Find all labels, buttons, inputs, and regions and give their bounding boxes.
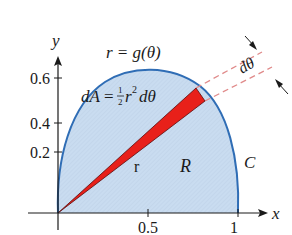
dtheta-dash-lower: [205, 67, 272, 101]
polar-area-diagram: 0.5 1 0.2 0.4 0.6 x y r = g(θ) dA = 1 2 …: [0, 0, 292, 235]
formula-equals: =: [104, 87, 114, 106]
x-tick-label-1: 1: [230, 219, 238, 235]
formula-frac-den: 2: [118, 97, 123, 107]
formula-r: r: [125, 87, 132, 106]
dtheta-arrow-top-icon: [245, 36, 257, 50]
dtheta-arrow-bottom-icon: [275, 79, 288, 94]
y-tick-label-0.6: 0.6: [30, 70, 50, 87]
formula-lhs: dA: [81, 87, 101, 106]
x-axis-label: x: [271, 204, 280, 223]
formula-dtheta: dθ: [139, 87, 156, 106]
x-tick-label-0.5: 0.5: [138, 219, 158, 235]
curve-label: C: [244, 153, 256, 172]
formula-frac-num: 1: [118, 85, 123, 95]
y-axis-label: y: [50, 31, 60, 50]
curve-equation: r = g(θ): [106, 43, 161, 62]
dtheta-label: dθ: [235, 54, 257, 77]
formula-sup: 2: [132, 84, 137, 95]
radius-label: r: [134, 158, 140, 175]
y-tick-label-0.2: 0.2: [30, 144, 50, 161]
region-label: R: [179, 156, 191, 176]
y-tick-label-0.4: 0.4: [30, 115, 50, 132]
